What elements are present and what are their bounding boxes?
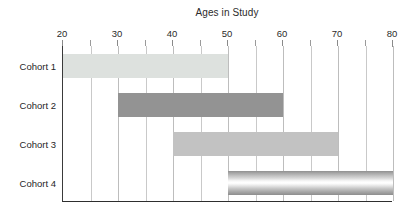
y-label-cohort-1: Cohort 1 [0,60,56,71]
ages-in-study-chart: Ages in Study 20304050607080 Cohort 1Coh… [0,0,404,221]
x-tick-label-80: 80 [387,28,398,39]
x-tick-label-60: 60 [277,28,288,39]
bars-layer [63,46,392,201]
bar-cohort-1 [63,54,228,78]
y-label-cohort-4: Cohort 4 [0,177,56,188]
y-axis-category-labels: Cohort 1Cohort 2Cohort 3Cohort 4 [0,46,56,202]
bar-cohort-2 [118,93,283,117]
chart-title: Ages in Study [62,7,392,18]
y-label-cohort-3: Cohort 3 [0,138,56,149]
bar-cohort-4 [228,171,393,195]
y-label-cohort-2: Cohort 2 [0,99,56,110]
x-tick-label-30: 30 [112,28,123,39]
gridline-80 [393,46,394,201]
x-tick-label-70: 70 [332,28,343,39]
x-tick-label-20: 20 [57,28,68,39]
x-tick-label-40: 40 [167,28,178,39]
bar-cohort-3 [173,132,338,156]
plot-area [62,46,392,202]
x-tick-label-50: 50 [222,28,233,39]
